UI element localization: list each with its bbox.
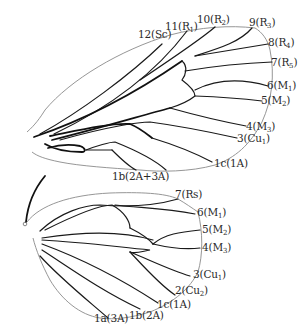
label-hindwing-3-cu1: 3(Cu1) [193, 269, 226, 282]
label-forewing-10-r2: 10(R2) [197, 14, 230, 27]
vein-cu2 [152, 138, 212, 162]
vein-3a-hw [40, 256, 108, 318]
label-vein: 3A [110, 312, 124, 324]
label-hindwing-1c-1a: 1c(1A) [157, 299, 191, 310]
label-num: 9 [249, 16, 255, 28]
label-vein: Cu [247, 132, 261, 144]
label-vein: R [278, 36, 286, 48]
label-sub: 1 [288, 85, 292, 93]
label-vein: Cu [203, 268, 217, 280]
label-hindwing-6-m1: 6(M1) [197, 207, 226, 220]
label-sub: 4 [286, 42, 290, 50]
label-num: 10 [197, 13, 210, 25]
label-vein: R [259, 16, 267, 28]
label-vein: R [182, 20, 190, 32]
label-num: 7 [271, 56, 277, 68]
label-sub: 2 [222, 19, 226, 27]
label-vein: R [281, 56, 289, 68]
label-num: 1b [129, 309, 142, 321]
label-forewing-11-r1: 11(R1) [165, 21, 198, 34]
label-forewing-8-r4: 8(R4) [268, 37, 294, 50]
label-hindwing-4-m3: 4(M3) [202, 242, 231, 255]
vein-2a-hw [42, 250, 140, 309]
label-num: 7 [175, 188, 181, 200]
label-sub: 3 [267, 22, 271, 30]
label-num: 2 [175, 284, 181, 296]
label-sub: 1 [262, 138, 266, 146]
label-forewing-1c-1a: 1c(1A) [214, 158, 248, 169]
label-num: 12 [138, 28, 151, 40]
label-forewing-6-m1: 6(M1) [267, 80, 296, 93]
vein-1a [86, 142, 166, 170]
label-num: 1b [112, 170, 125, 182]
label-sub: 5 [289, 62, 293, 70]
vein-2a3a [112, 150, 136, 170]
label-forewing-7-r5: 7(R5) [271, 57, 297, 70]
label-sub: 2 [223, 229, 227, 237]
label-vein: M [207, 206, 218, 218]
label-vein: Cu [185, 284, 199, 296]
vein-m1-hw [115, 205, 195, 214]
hindwing-humeral-vein [26, 176, 45, 222]
label-vein: M [271, 94, 282, 106]
vein-sc [40, 44, 162, 134]
label-sub: 3 [223, 247, 227, 255]
label-forewing-3-cu1: 3(Cu1) [237, 133, 270, 146]
label-hindwing-1a-3a: 1a(3A) [94, 313, 128, 324]
vein-m3-hw [153, 244, 200, 249]
label-vein: M [277, 79, 288, 91]
label-num: 1a [94, 312, 107, 324]
label-sub: 2 [282, 100, 286, 108]
hindwing-base-point [23, 222, 27, 226]
vein-m3 [170, 108, 246, 126]
vein-m2-hw [153, 230, 200, 244]
vein-hw-cell-lower [42, 233, 153, 240]
label-num: 4 [246, 120, 252, 132]
label-vein: Rs [185, 188, 198, 200]
vein-r4 [195, 44, 268, 56]
label-forewing-1b-2a3a: 1b(2A+3A) [112, 171, 169, 182]
label-hindwing-7-rs: 7(Rs) [175, 189, 202, 200]
wing-venation-diagram [0, 0, 304, 332]
label-num: 8 [268, 36, 274, 48]
label-vein: R [214, 13, 222, 25]
label-hindwing-1b-2a: 1b(2A) [129, 310, 164, 321]
label-num: 3 [193, 268, 199, 280]
label-num: 1c [214, 157, 226, 169]
label-sub: 1 [218, 274, 222, 282]
label-sub: 1 [190, 26, 194, 34]
label-num: 3 [237, 132, 243, 144]
forewing [27, 27, 272, 171]
label-vein: 2A+3A [129, 170, 165, 182]
label-num: 6 [267, 79, 273, 91]
label-sub: 2 [200, 290, 204, 298]
label-sub: 1 [218, 212, 222, 220]
vein-1a-hw [42, 244, 158, 303]
label-hindwing-5-m2: 5(M2) [202, 224, 231, 237]
label-vein: M [256, 120, 267, 132]
vein-discal-cell-end [170, 61, 195, 108]
vein-m2 [195, 96, 262, 101]
label-vein: M [212, 223, 223, 235]
vein-r5 [185, 62, 272, 71]
vein-cu1-hw [130, 252, 190, 276]
vein-2a3a-base [45, 144, 85, 152]
label-num: 5 [261, 94, 267, 106]
label-vein: M [212, 241, 223, 253]
label-vein: 2A [146, 309, 160, 321]
label-num: 5 [202, 223, 208, 235]
label-forewing-9-r3: 9(R3) [249, 17, 275, 30]
label-forewing-5-m2: 5(M2) [261, 95, 290, 108]
vein-rs [40, 199, 178, 231]
label-hindwing-2-cu2: 2(Cu2) [175, 285, 208, 298]
label-vein: 1A [230, 157, 244, 169]
label-num: 11 [165, 20, 178, 32]
label-vein: 1A [173, 298, 187, 310]
label-num: 6 [197, 206, 203, 218]
vein-m1 [195, 81, 268, 90]
label-num: 4 [202, 241, 208, 253]
vein-cu2-hw [130, 252, 175, 295]
